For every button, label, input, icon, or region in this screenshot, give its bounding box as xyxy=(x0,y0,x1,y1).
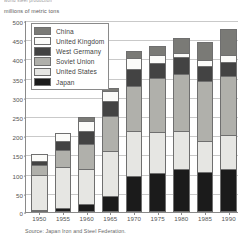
bar-segment-soviet-union[interactable] xyxy=(173,74,190,131)
clipped-caption: world steel production xyxy=(4,0,52,3)
y-tick-label: 350 xyxy=(12,76,23,83)
legend-label: West Germany xyxy=(56,48,101,55)
bar-segment-soviet-union[interactable] xyxy=(126,86,143,131)
bar-segment-united-states[interactable] xyxy=(102,151,119,197)
bar-segment-united-states[interactable] xyxy=(31,175,48,210)
x-tick-label: 1950 xyxy=(32,215,46,222)
bar-group[interactable]: 1980 xyxy=(173,20,190,212)
bar-segment-west-germany[interactable] xyxy=(78,131,95,144)
legend-item-united-kingdom[interactable]: United Kingdom xyxy=(34,36,104,46)
bar-segment-west-germany[interactable] xyxy=(102,101,119,115)
bar-segment-soviet-union[interactable] xyxy=(220,76,237,135)
legend-item-soviet-union[interactable]: Soviet Union xyxy=(34,57,104,67)
bar-segment-china[interactable] xyxy=(149,46,166,55)
y-axis-title: millions of metric tons xyxy=(4,8,59,14)
x-tick-label: 1985 xyxy=(198,215,212,222)
bar-segment-united-kingdom[interactable] xyxy=(78,121,95,131)
bar-segment-japan[interactable] xyxy=(102,196,119,212)
legend-swatch-icon xyxy=(34,68,51,76)
legend-swatch-icon xyxy=(34,37,51,45)
y-tick-label: 0 xyxy=(19,210,23,217)
x-tick-label: 1980 xyxy=(174,215,188,222)
bar-segment-united-kingdom[interactable] xyxy=(220,55,237,62)
bar-stack[interactable] xyxy=(149,46,166,212)
bar-segment-united-states[interactable] xyxy=(197,141,214,172)
bar-group[interactable]: 1970 xyxy=(126,20,143,212)
bar-segment-soviet-union[interactable] xyxy=(31,165,48,175)
legend-label: United Kingdom xyxy=(56,38,104,45)
bar-stack[interactable] xyxy=(126,51,143,212)
bar-stack[interactable] xyxy=(102,88,119,212)
bar-segment-west-germany[interactable] xyxy=(220,62,237,77)
legend-swatch-icon xyxy=(34,47,51,55)
y-tick-label: 200 xyxy=(12,134,23,141)
bar-segment-united-states[interactable] xyxy=(173,131,190,170)
bar-stack[interactable] xyxy=(220,29,237,212)
bar-segment-united-states[interactable] xyxy=(126,131,143,177)
bar-segment-soviet-union[interactable] xyxy=(149,78,166,132)
bar-segment-japan[interactable] xyxy=(197,172,214,212)
bar-segment-west-germany[interactable] xyxy=(173,57,190,74)
bar-segment-china[interactable] xyxy=(126,51,143,58)
bar-segment-japan[interactable] xyxy=(126,176,143,212)
legend-swatch-icon xyxy=(34,27,51,35)
x-tick-label: 1990 xyxy=(222,215,236,222)
bar-segment-china[interactable] xyxy=(173,38,190,52)
y-tick-label: 500 xyxy=(12,19,23,26)
y-tick-label: 150 xyxy=(12,153,23,160)
bar-segment-united-kingdom[interactable] xyxy=(126,58,143,69)
bar-segment-japan[interactable] xyxy=(78,204,95,212)
y-tick-label: 250 xyxy=(12,115,23,122)
bar-group[interactable]: 1985 xyxy=(197,20,214,212)
legend-label: Soviet Union xyxy=(56,58,95,65)
bar-stack[interactable] xyxy=(31,154,48,212)
x-tick-label: 1955 xyxy=(56,215,70,222)
chart-legend: ChinaUnited KingdomWest GermanySoviet Un… xyxy=(31,23,109,90)
bar-stack[interactable] xyxy=(197,42,214,212)
x-tick-label: 1975 xyxy=(151,215,165,222)
legend-label: China xyxy=(56,28,74,35)
y-tick-label: 50 xyxy=(16,191,23,198)
bar-segment-united-states[interactable] xyxy=(149,132,166,173)
bar-segment-japan[interactable] xyxy=(149,173,166,212)
y-tick-label: 450 xyxy=(12,38,23,45)
bar-segment-united-states[interactable] xyxy=(55,167,72,208)
x-tick-label: 1960 xyxy=(80,215,94,222)
bar-stack[interactable] xyxy=(78,117,95,212)
bar-group[interactable]: 1990 xyxy=(220,20,237,212)
legend-item-china[interactable]: China xyxy=(34,26,104,36)
bar-segment-japan[interactable] xyxy=(173,169,190,212)
bar-stack[interactable] xyxy=(173,38,190,212)
bar-segment-west-germany[interactable] xyxy=(55,141,72,150)
y-tick-label: 400 xyxy=(12,57,23,64)
bar-segment-united-kingdom[interactable] xyxy=(102,91,119,101)
bar-segment-west-germany[interactable] xyxy=(197,66,214,81)
y-tick-mark xyxy=(24,213,27,214)
bar-segment-china[interactable] xyxy=(197,42,214,60)
bar-segment-soviet-union[interactable] xyxy=(78,144,95,169)
bar-segment-soviet-union[interactable] xyxy=(197,81,214,141)
legend-item-japan[interactable]: Japan xyxy=(34,77,104,87)
bar-segment-soviet-union[interactable] xyxy=(102,116,119,151)
source-note: Source: Japan Iron and Steel Federation. xyxy=(25,228,126,234)
legend-item-west-germany[interactable]: West Germany xyxy=(34,46,104,56)
bar-segment-japan[interactable] xyxy=(220,169,237,212)
bar-group[interactable]: 1975 xyxy=(149,20,166,212)
bar-stack[interactable] xyxy=(55,133,72,212)
x-tick-label: 1965 xyxy=(103,215,117,222)
y-tick-label: 300 xyxy=(12,95,23,102)
bar-segment-united-states[interactable] xyxy=(78,169,95,204)
legend-label: United States xyxy=(56,68,97,75)
bar-segment-united-kingdom[interactable] xyxy=(55,133,72,141)
legend-swatch-icon xyxy=(34,78,51,86)
steel-production-chart-figure: world steel production millions of metri… xyxy=(0,0,244,242)
legend-item-united-states[interactable]: United States xyxy=(34,67,104,77)
legend-swatch-icon xyxy=(34,57,51,65)
bar-segment-united-states[interactable] xyxy=(220,135,237,169)
bar-segment-united-kingdom[interactable] xyxy=(149,55,166,63)
legend-label: Japan xyxy=(56,79,74,86)
bar-segment-west-germany[interactable] xyxy=(149,63,166,78)
bar-segment-china[interactable] xyxy=(220,29,237,54)
bar-segment-soviet-union[interactable] xyxy=(55,150,72,167)
bar-segment-west-germany[interactable] xyxy=(126,69,143,86)
